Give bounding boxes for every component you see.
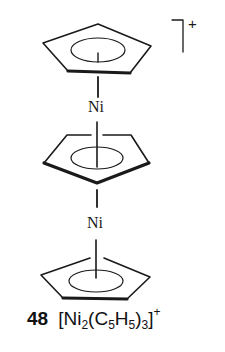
middle-bridging-cyclopentadienyl-ring [44, 122, 149, 183]
structure-drawing [0, 0, 225, 352]
triple-decker-sandwich-figure: Ni Ni + 48[Ni2(C5H5)3]+ [0, 0, 225, 352]
bottom-cyclopentadienyl-ring [41, 240, 150, 299]
formula-charge: + [154, 305, 161, 319]
upper-nickel-atom-label: Ni [88, 99, 104, 115]
charge-plus-sign: + [188, 16, 197, 31]
charge-bracket [172, 20, 183, 52]
formula-hydrogen: H [115, 308, 129, 329]
top-cyclopentadienyl-ring [43, 24, 151, 73]
compound-caption: 48[Ni2(C5H5)3]+ [27, 309, 161, 328]
formula-metal: Ni [63, 308, 81, 329]
formula-carbon: C [94, 308, 108, 329]
lower-nickel-atom-label: Ni [87, 215, 103, 231]
compound-number: 48 [27, 308, 48, 329]
formula-carbon-count: 5 [108, 318, 115, 332]
